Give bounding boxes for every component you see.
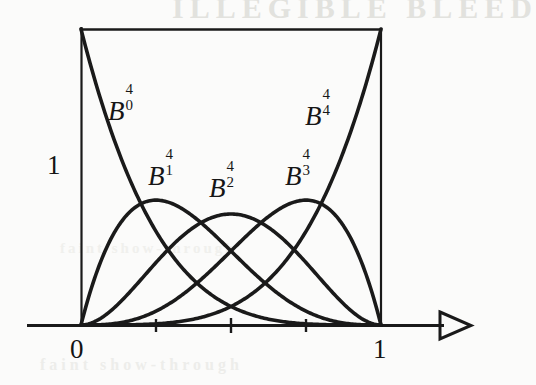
curve-label-b2-base: B bbox=[209, 173, 226, 203]
curve-label-b3-superscript: 4 bbox=[303, 148, 311, 162]
curve-label-b4-superscript: 4 bbox=[323, 88, 331, 102]
curve-label-b2-subscript: 2 bbox=[227, 176, 235, 190]
curve-label-b0-subscript: 0 bbox=[126, 99, 134, 113]
x-axis-label-one: 1 bbox=[373, 334, 387, 365]
x-axis-arrowhead-icon bbox=[440, 312, 471, 339]
curve-label-b3-base: B bbox=[285, 161, 302, 191]
curve-label-b0-superscript: 4 bbox=[126, 83, 134, 97]
curve-label-b2-superscript: 4 bbox=[227, 160, 235, 174]
curve-label-b1: B41 bbox=[148, 160, 173, 192]
curve-label-b4-subscript: 4 bbox=[323, 104, 331, 118]
y-axis-label-one: 1 bbox=[47, 150, 61, 181]
curve-label-b4: B44 bbox=[305, 100, 330, 132]
curve-label-b3-subscript: 3 bbox=[303, 164, 311, 178]
curve-label-b0-base: B bbox=[108, 96, 125, 126]
curve-label-b2: B42 bbox=[209, 172, 234, 204]
curve-label-b1-superscript: 4 bbox=[166, 148, 174, 162]
curve-label-b4-base: B bbox=[305, 101, 322, 131]
curve-label-b1-subscript: 1 bbox=[166, 164, 174, 178]
curve-label-b3: B43 bbox=[285, 160, 310, 192]
curve-label-b1-base: B bbox=[148, 161, 165, 191]
x-axis-label-zero: 0 bbox=[70, 334, 84, 365]
curve-label-b0: B40 bbox=[108, 95, 133, 127]
